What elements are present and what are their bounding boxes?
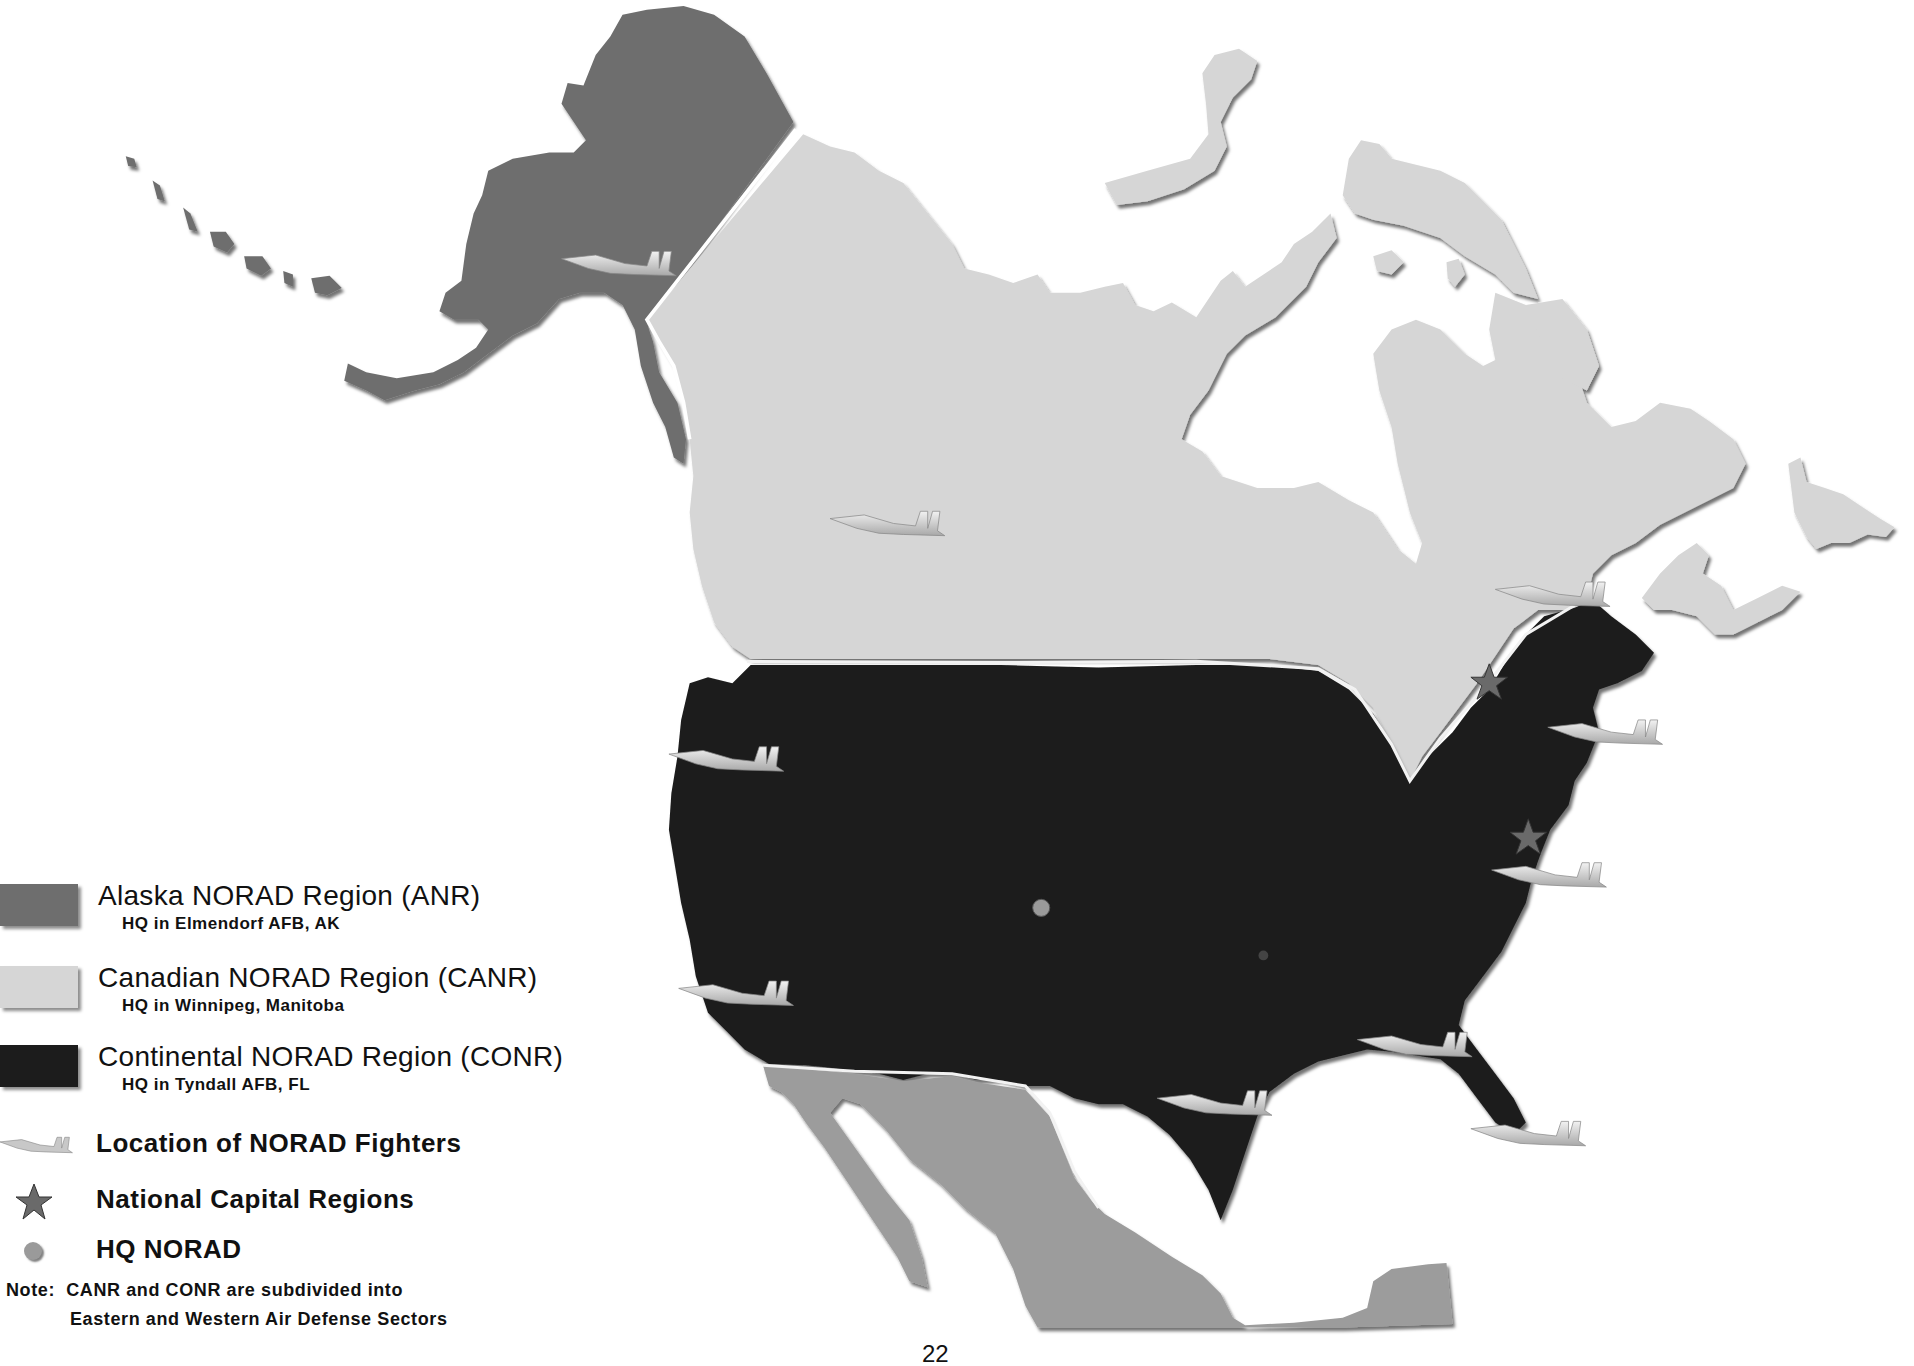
legend-title-canr: Canadian NORAD Region (CANR) <box>98 962 537 994</box>
legend-hq-canr: HQ in Winnipeg, Manitoba <box>122 996 344 1016</box>
fighter-jet-icon <box>0 1130 74 1160</box>
legend-title-conr: Continental NORAD Region (CONR) <box>98 1041 563 1073</box>
legend-hq-conr: HQ in Tyndall AFB, FL <box>122 1075 310 1095</box>
fighter-jet-icon[interactable] <box>1471 1121 1586 1145</box>
swatch-anr <box>0 884 78 926</box>
dot-icon <box>24 1242 42 1260</box>
legend-label-hq: HQ NORAD <box>96 1234 242 1265</box>
legend-label-fighters: Location of NORAD Fighters <box>96 1128 461 1159</box>
legend-label-capitals: National Capital Regions <box>96 1184 414 1215</box>
star-icon <box>14 1182 54 1222</box>
swatch-conr <box>0 1045 78 1087</box>
minor-marker <box>1259 951 1269 961</box>
swatch-canr <box>0 966 78 1008</box>
region-mexico <box>763 1065 1453 1327</box>
hq-norad-marker[interactable] <box>1033 899 1050 916</box>
legend-title-anr: Alaska NORAD Region (ANR) <box>98 880 481 912</box>
legend-hq-anr: HQ in Elmendorf AFB, AK <box>122 914 340 934</box>
